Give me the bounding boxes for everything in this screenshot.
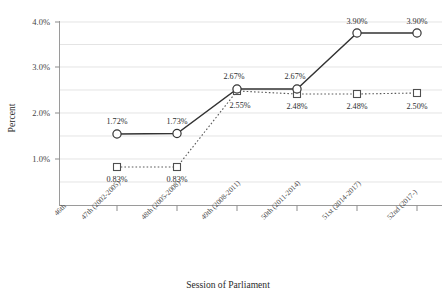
circle-marker-47th	[113, 130, 121, 138]
y-axis-tick-labels: 4.0% 3.0% 2.0% 1.0%	[32, 17, 50, 164]
y-axis-title: Percent	[6, 103, 17, 132]
square-series-value-labels: 0.83% 0.83% 2.55% 2.48% 2.48% 2.50%	[106, 101, 427, 184]
x-axis-category-labels: 46th 47th (2002-2005) 48th (2005-2008) 4…	[52, 178, 419, 221]
x-category-label-49th: 49th (2008-2011)	[199, 178, 242, 221]
y-tick-label-4: 4.0%	[32, 17, 50, 27]
x-category-label-46th: 46th	[52, 202, 68, 218]
square-marker-51st	[354, 91, 361, 98]
circle-value-label-47th: 1.72%	[106, 117, 127, 126]
x-category-label-50th: 50th (2011-2014)	[259, 178, 302, 221]
circle-series-markers	[113, 29, 421, 138]
square-value-label-48th: 0.83%	[166, 175, 187, 184]
square-value-label-51st: 2.48%	[346, 102, 367, 111]
x-category-label-48th: 48th (2005-2008)	[139, 178, 182, 221]
circle-value-label-49th: 2.67%	[223, 72, 244, 81]
circle-series-line	[117, 33, 417, 134]
square-value-label-47th: 0.83%	[106, 175, 127, 184]
circle-value-label-51st: 3.90%	[346, 17, 367, 26]
x-axis-title: Session of Parliament	[186, 279, 270, 290]
y-tick-label-2: 2.0%	[32, 108, 50, 118]
circle-marker-49th	[233, 85, 241, 93]
square-marker-47th	[114, 164, 121, 171]
circle-value-label-50th: 2.67%	[284, 72, 305, 81]
y-tick-label-1: 1.0%	[32, 154, 50, 164]
square-series-line	[117, 91, 417, 167]
line-chart: 4.0% 3.0% 2.0% 1.0% Percent 46th 47th (2…	[0, 0, 446, 299]
square-value-label-50th: 2.48%	[286, 102, 307, 111]
x-category-label-47th: 47th (2002-2005)	[79, 178, 122, 221]
y-tick-label-3: 3.0%	[32, 62, 50, 72]
square-marker-52nd	[414, 90, 421, 97]
circle-value-label-52nd: 3.90%	[406, 17, 427, 26]
circle-marker-48th	[173, 129, 181, 137]
circle-marker-52nd	[413, 29, 421, 37]
circle-value-label-48th: 1.73%	[166, 117, 187, 126]
square-value-label-49th: 2.55%	[229, 101, 250, 110]
circle-marker-51st	[353, 29, 361, 37]
square-value-label-52nd: 2.50%	[406, 102, 427, 111]
circle-marker-50th	[293, 85, 301, 93]
x-category-label-52nd: 52nd (2017-)	[385, 187, 419, 221]
chart-canvas: 4.0% 3.0% 2.0% 1.0% Percent 46th 47th (2…	[0, 0, 446, 299]
square-series-markers	[114, 88, 421, 171]
x-category-label-51st: 51st (2014-2017)	[320, 179, 363, 222]
square-marker-48th	[174, 164, 181, 171]
